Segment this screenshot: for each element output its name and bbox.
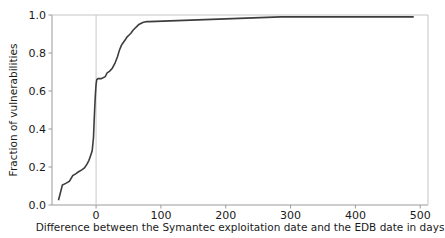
ecdf-chart-figure: 0100200300400500 0.00.20.40.60.81.0 Diff… [0,0,445,238]
plot-canvas: 0100200300400500 0.00.20.40.60.81.0 Diff… [0,0,445,238]
y-tick-label: 0.6 [29,85,47,98]
x-axis-title: Difference between the Symantec exploita… [36,221,445,233]
figure-background [0,0,445,238]
y-tick-label: 0.4 [29,123,47,136]
y-tick-label: 0.0 [29,199,47,212]
y-tick-label: 1.0 [29,9,47,22]
y-tick-label: 0.2 [29,161,47,174]
y-axis-title: Fraction of vulnerabilities [7,44,19,177]
y-tick-label: 0.8 [29,47,47,60]
